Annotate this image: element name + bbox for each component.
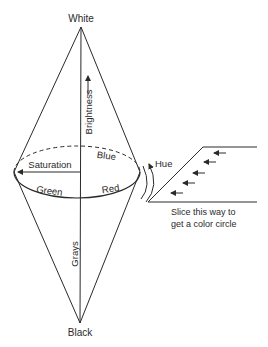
slice-arrows — [171, 153, 226, 193]
cone-outline — [14, 27, 140, 323]
hue-inner-arc — [141, 166, 147, 199]
label-white: White — [68, 13, 94, 24]
label-saturation: Saturation — [28, 159, 71, 170]
label-grays: Grays — [69, 241, 80, 267]
label-hue: Hue — [155, 158, 172, 169]
label-blue: Blue — [96, 149, 116, 163]
slice-plane — [148, 147, 257, 202]
color-ellipse-front — [14, 172, 140, 198]
label-slice-line1: Slice this way to — [171, 207, 236, 217]
label-brightness: Brightness — [83, 89, 94, 134]
label-green: Green — [36, 183, 64, 198]
label-black: Black — [68, 327, 93, 338]
label-slice-line2: get a color circle — [171, 219, 237, 229]
brightness-axis — [80, 27, 81, 323]
diagram-canvas: White Black Brightness Grays Saturation … — [0, 0, 268, 347]
hsb-cone-diagram: White Black Brightness Grays Saturation … — [0, 0, 268, 347]
label-red: Red — [101, 182, 120, 195]
